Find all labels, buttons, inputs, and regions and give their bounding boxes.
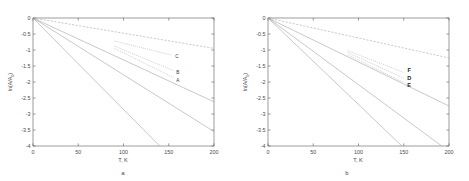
y-tick-label: -3.5 (21, 127, 30, 133)
curve-label-C: C (175, 54, 179, 59)
svg-text:ln(A/A0): ln(A/A0) (7, 73, 15, 91)
plot-panel-a: 0-0.5-1-1.5-2-2.5-3-3.5-4 050100150200 A… (0, 0, 234, 181)
panel-letter-a: a (121, 170, 125, 176)
plot-svg-a: 0-0.5-1-1.5-2-2.5-3-3.5-4 050100150200 A… (0, 0, 234, 181)
y-tick-label: -1.5 (21, 63, 30, 69)
curve-line-3 (33, 18, 214, 102)
curve-line-2 (268, 18, 442, 146)
y-tick-label: -3 (261, 111, 266, 117)
plot-svg-b: 0-0.5-1-1.5-2-2.5-3-3.5-4 050100150200 E… (235, 0, 469, 181)
panel-letter-b: b (345, 170, 349, 176)
curve-line-B (114, 46, 173, 70)
curve-label-E: E (407, 82, 411, 88)
plot-b-ylabel: ln(A/A0) (242, 73, 250, 91)
plot-b-curves (268, 18, 449, 146)
x-tick-label: 100 (354, 149, 363, 155)
curve-line-A (114, 48, 173, 77)
plot-a-xlabel: T, K (118, 157, 128, 163)
plot-a-curve-labels: ABC (175, 54, 180, 83)
curve-label-A: A (176, 78, 180, 83)
ylabel-tail-a: ) (7, 73, 13, 75)
y-tick-label: -1 (261, 47, 266, 53)
axes-frame (33, 18, 214, 146)
plot-a-ylabel: ln(A/A0) (7, 73, 15, 91)
ylabel-text-b: ln(A/A (242, 76, 248, 91)
x-tick-label: 50 (75, 149, 81, 155)
curve-line-E (348, 55, 404, 83)
curve-line-3 (268, 18, 449, 106)
x-tick-label: 100 (119, 149, 128, 155)
y-tick-label: -2 (26, 79, 31, 85)
y-tick-label: -1.5 (256, 63, 265, 69)
y-tick-label: -4 (26, 143, 31, 149)
xlabel-text-b: T, K (353, 157, 363, 163)
curve-line-D (348, 53, 404, 79)
figure-container: 0-0.5-1-1.5-2-2.5-3-3.5-4 050100150200 A… (0, 0, 469, 181)
y-tick-label: 0 (28, 15, 31, 21)
plot-b-frame (268, 18, 449, 146)
y-tick-label: -1 (26, 47, 31, 53)
plot-a-curves (33, 18, 214, 146)
y-tick-label: -2 (261, 79, 266, 85)
y-tick-label: -4 (261, 143, 266, 149)
x-tick-label: 200 (210, 149, 219, 155)
x-tick-label: 150 (164, 149, 173, 155)
curve-line-shallowest (33, 18, 214, 48)
x-tick-label: 0 (267, 149, 270, 155)
curve-line-F (348, 51, 404, 73)
ylabel-text-a: ln(A/A (7, 76, 13, 91)
plot-a-xticks: 050100150200 (32, 18, 219, 155)
x-tick-label: 0 (32, 149, 35, 155)
axes-frame (268, 18, 449, 146)
y-tick-label: -0.5 (21, 31, 30, 37)
plot-panel-b: 0-0.5-1-1.5-2-2.5-3-3.5-4 050100150200 E… (235, 0, 469, 181)
y-tick-label: -2.5 (256, 95, 265, 101)
svg-text:ln(A/A0): ln(A/A0) (242, 73, 250, 91)
y-tick-label: 0 (263, 15, 266, 21)
plot-b-panel-letter: b (345, 170, 349, 176)
y-tick-label: -3.5 (256, 127, 265, 133)
curve-label-B: B (176, 70, 179, 75)
plot-b-xlabel: T, K (353, 157, 363, 163)
curve-label-D: D (407, 75, 411, 81)
plot-b-curve-labels: EDF (407, 67, 411, 88)
plot-b-yticks: 0-0.5-1-1.5-2-2.5-3-3.5-4 (256, 15, 449, 149)
x-tick-label: 50 (310, 149, 316, 155)
y-tick-label: -3 (26, 111, 31, 117)
x-tick-label: 200 (445, 149, 454, 155)
plot-a-panel-letter: a (121, 170, 125, 176)
y-tick-label: -0.5 (256, 31, 265, 37)
x-tick-label: 150 (399, 149, 408, 155)
plot-a-frame (33, 18, 214, 146)
curve-label-F: F (407, 67, 411, 73)
curve-line-1-steepest (268, 18, 402, 146)
ylabel-tail-b: ) (242, 73, 248, 75)
xlabel-text-a: T, K (118, 157, 128, 163)
y-tick-label: -2.5 (21, 95, 30, 101)
curve-line-1-steepest (33, 18, 160, 146)
curve-line-2 (33, 18, 214, 132)
